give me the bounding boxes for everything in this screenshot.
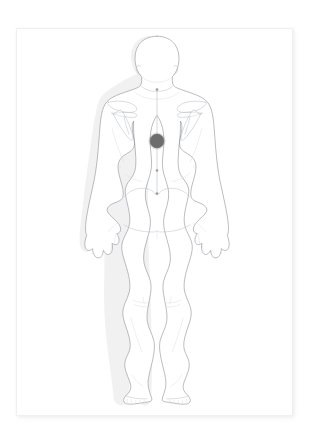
pain-location-marker[interactable] xyxy=(148,132,165,149)
body-figure[interactable]: Posterior view xyxy=(0,0,311,432)
body-chart-page: Posterior Body Pain Location Chart Poste… xyxy=(0,0,311,432)
